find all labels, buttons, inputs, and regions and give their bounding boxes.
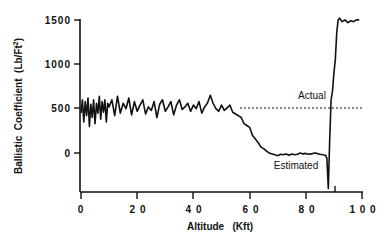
x-tick-label: 2 0 [130,204,147,215]
x-tick-label: 1 0 0 [349,204,376,215]
y-axis-title-main: Ballistic Coefficient (Lb/Ft [13,45,24,175]
y-axis-title-close: ) [13,38,24,41]
axes [74,19,363,199]
x-tick-label: 0 [78,204,85,215]
y-axis-title: Ballistic Coefficient (Lb/Ft2) [12,38,24,174]
y-tick-label: 1000 [45,59,71,70]
actual-annotation: Actual [298,90,326,101]
x-tick-label: 6 0 [243,204,260,215]
x-tick-label: 8 0 [299,204,316,215]
x-tick-label: 4 0 [186,204,203,215]
y-tick-labels: 1500 1000 500 0 [45,15,71,159]
x-tick-labels: 0 2 0 4 0 6 0 8 0 1 0 0 [78,204,377,215]
estimated-annotation: Estimated [274,160,318,171]
y-tick-label: 500 [51,103,71,114]
y-tick-label: 0 [64,148,71,159]
ballistic-coefficient-chart: 1500 1000 500 0 0 2 0 4 0 6 0 8 0 1 0 0 … [0,0,384,243]
x-axis-title: Altitude (Kft) [187,221,253,232]
y-tick-label: 1500 [45,15,71,26]
